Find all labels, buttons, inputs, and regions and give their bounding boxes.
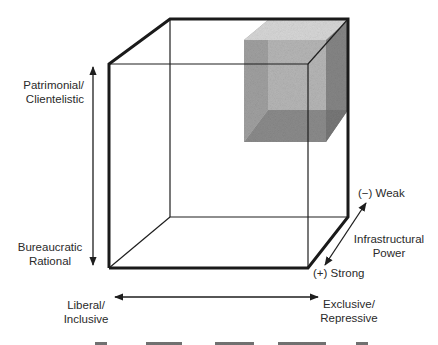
label-patrimonial-line1: Patrimonial/ — [10, 78, 84, 92]
label-exclusive-line2: Repressive — [312, 311, 386, 325]
label-strong: (+) Strong — [313, 266, 364, 280]
label-infrastructural: Infrastructural — [346, 232, 432, 246]
label-infrastructural-power: Infrastructural Power — [346, 232, 432, 260]
label-bureaucratic: Bureaucratic Rational — [12, 240, 88, 268]
highlighted-subcube — [244, 20, 348, 142]
label-bureaucratic-line2: Rational — [12, 254, 88, 268]
cube-diagram — [0, 0, 438, 345]
label-bureaucratic-line1: Bureaucratic — [12, 240, 88, 254]
label-liberal-line1: Liberal/ — [56, 298, 116, 312]
label-exclusive: Exclusive/ Repressive — [312, 297, 386, 325]
label-power: Power — [346, 246, 432, 260]
label-liberal: Liberal/ Inclusive — [56, 298, 116, 326]
label-liberal-line2: Inclusive — [56, 312, 116, 326]
label-weak: (−) Weak — [358, 186, 405, 200]
label-patrimonial: Patrimonial/ Clientelistic — [10, 78, 84, 106]
cut-off-caption — [80, 337, 380, 345]
label-patrimonial-line2: Clientelistic — [10, 92, 84, 106]
label-exclusive-line1: Exclusive/ — [312, 297, 386, 311]
